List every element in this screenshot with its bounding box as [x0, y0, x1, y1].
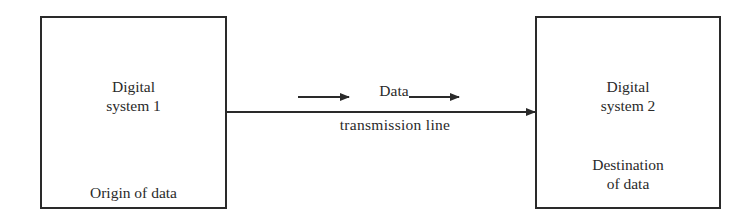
system-1-title: Digital system 1 — [42, 77, 225, 115]
system-2-title: Digital system 2 — [537, 77, 719, 115]
transmission-line-label: transmission line — [290, 116, 500, 134]
digital-system-2-block: Digital system 2 Destination of data — [535, 16, 721, 209]
data-flow-label: Data — [364, 82, 424, 100]
digital-system-1-block: Digital system 1 Origin of data — [40, 16, 227, 209]
system-1-role: Origin of data — [42, 183, 225, 202]
system-2-role: Destination of data — [537, 155, 719, 193]
